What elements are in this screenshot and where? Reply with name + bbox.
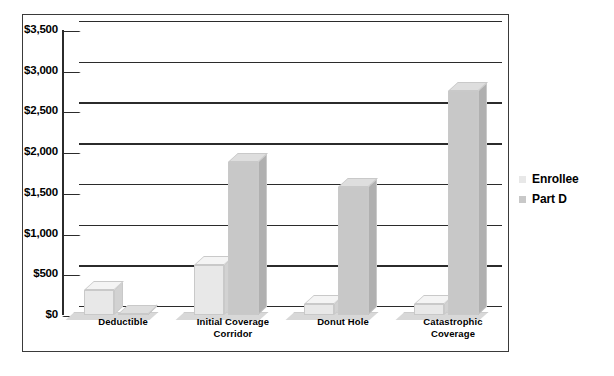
bar-side-face: [258, 154, 267, 315]
gridline-riser: [62, 102, 98, 113]
x-axis-tick-label-line: Coverage: [400, 328, 506, 340]
bar-front-face: [228, 162, 258, 315]
x-axis-tick-label-line: Corridor: [180, 328, 286, 340]
bar-front-face: [84, 290, 114, 315]
bar-enrollee-initial-coverage-corridor: [194, 265, 224, 315]
chart-screenshot: $0$500$1,000$1,500$2,000$2,500$3,000$3,5…: [0, 0, 614, 376]
bar-front-face: [448, 91, 478, 315]
gridline-riser: [62, 225, 98, 236]
y-axis-tick-label: $2,500: [24, 104, 58, 116]
bar-side-face: [478, 83, 487, 315]
y-axis-tick-label: $1,500: [24, 186, 58, 198]
gridline-riser: [62, 265, 98, 276]
bar-front-face: [414, 304, 444, 315]
x-axis-labels: DeductibleInitial CoverageCorridorDonut …: [62, 316, 502, 352]
x-axis-tick-label-line: Initial Coverage: [180, 316, 286, 328]
bar-part-d-donut-hole: [338, 187, 368, 315]
gridline-flat: [79, 102, 502, 103]
legend-swatch-icon: [519, 196, 526, 203]
legend-item-enrollee: Enrollee: [519, 172, 611, 186]
x-axis-tick-label: CatastrophicCoverage: [400, 316, 506, 340]
bar-side-face: [368, 179, 377, 315]
y-axis-tick-label: $2,000: [24, 145, 58, 157]
bar-part-d-catastrophic-coverage: [448, 91, 478, 315]
gridline-flat: [79, 62, 502, 63]
x-axis-tick-label-line: Catastrophic: [400, 316, 506, 328]
y-axis-tick-label: $0: [46, 308, 58, 320]
y-axis-labels: $0$500$1,000$1,500$2,000$2,500$3,000$3,5…: [22, 30, 58, 315]
bar-front-face: [304, 304, 334, 315]
gridline-flat: [79, 143, 502, 144]
gridline-flat: [79, 184, 502, 185]
gridline-flat: [79, 21, 502, 22]
y-axis-tick-label: $3,000: [24, 64, 58, 76]
chart-legend: EnrolleePart D: [519, 172, 611, 212]
y-axis-tick-label: $500: [33, 267, 58, 279]
bar-front-face: [194, 265, 224, 315]
gridline-riser: [62, 184, 98, 195]
legend-swatch-icon: [519, 176, 526, 183]
gridline-riser: [62, 143, 98, 154]
bar-part-d-initial-coverage-corridor: [228, 162, 258, 315]
legend-item-label: Enrollee: [532, 172, 579, 186]
gridline-flat: [79, 265, 502, 266]
plot-area: [62, 30, 502, 315]
bar-enrollee-catastrophic-coverage: [414, 304, 444, 315]
bar-enrollee-donut-hole: [304, 304, 334, 315]
bar-front-face: [338, 187, 368, 315]
x-axis-tick-label-line: Deductible: [70, 316, 176, 328]
gridline-riser: [62, 62, 98, 73]
bar-part-d-deductible: [118, 314, 148, 315]
y-axis-tick-label: $1,000: [24, 227, 58, 239]
legend-item-part-d: Part D: [519, 192, 611, 206]
x-axis-tick-label: Deductible: [70, 316, 176, 328]
gridline-flat: [79, 225, 502, 226]
bar-enrollee-deductible: [84, 290, 114, 315]
x-axis-tick-label: Donut Hole: [290, 316, 396, 328]
x-axis-tick-label: Initial CoverageCorridor: [180, 316, 286, 340]
legend-item-label: Part D: [532, 192, 567, 206]
x-axis-tick-label-line: Donut Hole: [290, 316, 396, 328]
y-axis-tick-label: $3,500: [24, 23, 58, 35]
